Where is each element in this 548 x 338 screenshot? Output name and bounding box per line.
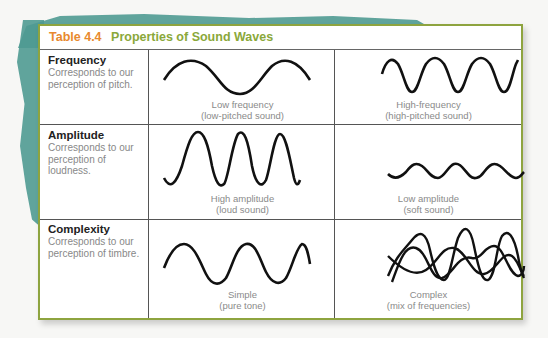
description: Corresponds to our perception of timbre. [48, 236, 148, 259]
caption-high-frequency: High-frequency (high-pitched sound) [336, 99, 521, 121]
row-divider [40, 124, 521, 125]
high-frequency-wave-icon [380, 56, 520, 96]
description: Corresponds to our perception of pitch. [48, 67, 148, 90]
row-label-frequency: Frequency Corresponds to our perception … [48, 54, 148, 90]
caption-complex: Complex (mix of frequencies) [336, 289, 521, 311]
table-title: Properties of Sound Waves [111, 30, 273, 44]
term: Amplitude [48, 129, 148, 142]
simple-wave-icon [162, 240, 312, 290]
row-label-complexity: Complexity Corresponds to our perception… [48, 223, 148, 259]
row-divider [40, 219, 521, 220]
caption-high-amplitude: High amplitude (loud sound) [150, 193, 335, 215]
low-frequency-wave-icon [162, 56, 312, 96]
table-header: Table 4.4 Properties of Sound Waves [40, 26, 521, 50]
column-divider [148, 50, 149, 318]
caption-low-frequency: Low frequency (low-pitched sound) [150, 99, 335, 121]
low-amplitude-wave-icon [386, 160, 528, 182]
high-amplitude-wave-icon [162, 130, 302, 190]
complex-wave-icon [386, 226, 526, 288]
description: Corresponds to our perception of loudnes… [48, 142, 148, 177]
table-number: Table 4.4 [49, 30, 102, 44]
caption-low-amplitude: Low amplitude (soft sound) [336, 193, 521, 215]
term: Complexity [48, 223, 148, 236]
caption-simple: Simple (pure tone) [150, 289, 335, 311]
row-label-amplitude: Amplitude Corresponds to our perception … [48, 129, 148, 177]
sound-waves-table: Table 4.4 Properties of Sound Waves Freq… [38, 24, 523, 320]
term: Frequency [48, 54, 148, 67]
column-divider [334, 50, 335, 318]
